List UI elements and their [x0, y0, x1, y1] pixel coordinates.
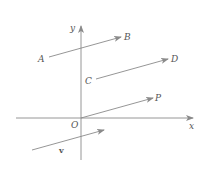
x-axis-label: x [189, 121, 194, 131]
vector-v-label: v [58, 145, 64, 155]
point-c-label: C [85, 76, 92, 86]
vector-op [81, 98, 153, 118]
origin-label: O [71, 120, 79, 130]
point-a-label: A [37, 54, 45, 64]
y-axis-label: y [69, 23, 76, 33]
point-p-label: P [154, 93, 162, 103]
point-d-label: D [170, 54, 178, 64]
vector-diagram: y x O A B C D P v [0, 0, 211, 170]
vector-ab [49, 37, 121, 57]
vector-v [32, 130, 104, 150]
vector-cd [96, 59, 168, 79]
point-b-label: B [123, 32, 131, 42]
